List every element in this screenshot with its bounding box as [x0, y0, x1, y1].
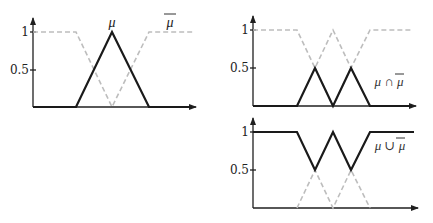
min-curve-dashed	[297, 170, 370, 208]
tick-label-1: 1	[21, 25, 29, 39]
fuzzy-sets-diagram: 1 0.5 μ μ 1 0.5 μ ∩ μ 1 0.5 μ ∪ μ	[0, 0, 433, 223]
tick-label-0-5: 0.5	[10, 63, 29, 77]
complement-curve	[33, 32, 193, 107]
max-curve-dashed	[253, 30, 413, 68]
intersection-label: μ ∩ μ	[374, 74, 404, 89]
mu-bar-label: μ	[165, 15, 173, 30]
tick-label-0-5: 0.5	[230, 61, 249, 75]
union-label: μ ∪ μ	[374, 138, 406, 153]
tick-label-1: 1	[241, 23, 249, 37]
mu-label: μ	[107, 15, 115, 30]
mu-curve	[33, 32, 192, 107]
dashed-mid	[315, 68, 351, 106]
panel-intersection: 1 0.5 μ ∩ μ	[230, 16, 416, 106]
tick-label-0-5: 0.5	[230, 163, 249, 177]
panel-mu-and-complement: 1 0.5 μ μ	[10, 14, 196, 107]
panel-union: 1 0.5 μ ∪ μ	[230, 118, 418, 208]
tick-label-1: 1	[241, 125, 249, 139]
